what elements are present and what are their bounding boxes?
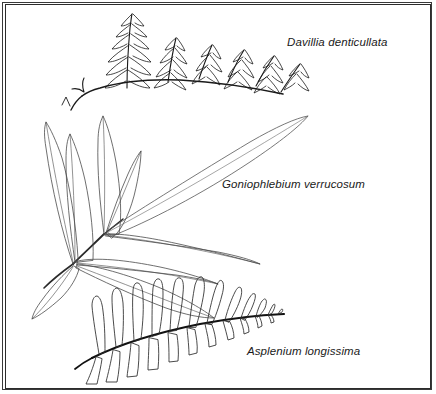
specimen-label-asplenium: Asplenium longissima (247, 345, 360, 357)
specimen-asplenium (75, 277, 284, 384)
specimen-label-goniophlebium: Goniophlebium verrucosum (222, 178, 365, 190)
davallia-pinna-6 (281, 64, 309, 92)
davallia-basal-branch (72, 78, 84, 92)
specimen-label-davallia: Davillia denticullata (287, 36, 388, 48)
botanical-plate: Davillia denticullata Goniophlebium verr… (0, 0, 436, 394)
asplenium-stipe (75, 358, 92, 369)
davallia-pinna-1 (105, 14, 151, 88)
goniophlebium-leaflet-group-upper (98, 116, 308, 264)
specimen-goniophlebium (32, 116, 308, 319)
davallia-pinna-2 (154, 38, 187, 90)
specimen-davallia (62, 14, 309, 110)
goniophlebium-stipe (44, 264, 73, 288)
davallia-pinna-3 (192, 45, 222, 85)
davallia-rachis (82, 80, 283, 96)
davallia-basal-scale (62, 97, 70, 106)
specimen-illustrations (0, 0, 436, 394)
davallia-pinna-5 (254, 56, 283, 94)
davallia-stipe (71, 96, 82, 110)
